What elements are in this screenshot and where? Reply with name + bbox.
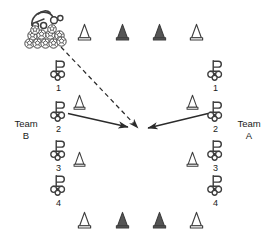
cone-icon-dark bbox=[116, 212, 128, 228]
arrow-ball-pass-dashed bbox=[61, 47, 138, 128]
movement-arrows bbox=[61, 47, 208, 128]
cone-icon-light bbox=[187, 95, 198, 109]
arrow-team-a-run bbox=[148, 114, 208, 129]
team-b-player-group bbox=[51, 61, 65, 196]
cone-icon-light bbox=[187, 152, 198, 166]
cone-icon-dark bbox=[153, 24, 165, 40]
soccer-drill-diagram: Team B Team A 1 2 3 4 1 2 3 4 bbox=[0, 0, 273, 246]
cone-row-top bbox=[78, 24, 202, 40]
player-icon bbox=[208, 176, 222, 196]
cone-group-inner bbox=[74, 95, 198, 166]
ball-supply-group bbox=[25, 11, 66, 48]
soccer-ball-icon bbox=[31, 26, 40, 35]
cone-icon-dark bbox=[153, 212, 165, 228]
cone-icon-light bbox=[74, 95, 85, 109]
cone-icon-light bbox=[78, 24, 90, 40]
soccer-ball-icon bbox=[48, 25, 57, 34]
player-icon bbox=[51, 176, 65, 196]
cone-icon-light bbox=[78, 212, 90, 228]
soccer-ball-icon bbox=[57, 37, 66, 46]
player-icon bbox=[208, 61, 222, 81]
arrow-team-b-run bbox=[68, 114, 128, 128]
cone-icon-dark bbox=[116, 24, 128, 40]
cone-row-bottom bbox=[78, 212, 202, 228]
player-icon bbox=[51, 141, 65, 161]
diagram-canvas bbox=[0, 0, 273, 246]
player-icon bbox=[51, 61, 65, 81]
cone-icon-light bbox=[74, 152, 85, 166]
player-icon bbox=[208, 141, 222, 161]
cone-icon-light bbox=[190, 24, 202, 40]
player-icon bbox=[51, 102, 65, 122]
player-icon bbox=[208, 102, 222, 122]
team-a-player-group bbox=[208, 61, 222, 196]
cone-icon-light bbox=[190, 212, 202, 228]
